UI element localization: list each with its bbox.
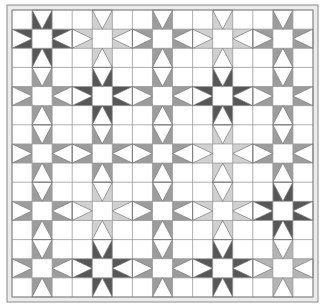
quilt-svg	[0, 0, 325, 306]
quilt-border	[7, 5, 318, 302]
inner-field	[12, 10, 313, 297]
quilt-diagram	[0, 0, 325, 306]
